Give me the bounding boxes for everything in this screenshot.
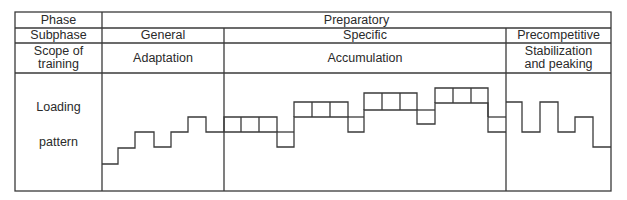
row-label-subphase: Subphase bbox=[15, 28, 102, 43]
phase-preparatory: Preparatory bbox=[102, 12, 611, 28]
loading-label-line1: Loading bbox=[15, 100, 102, 114]
precompetitive-loading-steps bbox=[506, 102, 611, 147]
stabilization-line2: and peaking bbox=[524, 58, 592, 71]
specific-boxes-4 bbox=[435, 88, 488, 103]
scope-label-line2: training bbox=[38, 58, 79, 71]
row-label-phase: Phase bbox=[15, 12, 102, 28]
row-label-scope: Scope of training bbox=[15, 43, 102, 73]
scope-adaptation: Adaptation bbox=[102, 43, 224, 73]
specific-boxes-1 bbox=[224, 117, 277, 132]
specific-boxes-2 bbox=[294, 102, 348, 117]
subphase-specific: Specific bbox=[224, 28, 506, 43]
scope-stabilization-peaking: Stabilization and peaking bbox=[506, 43, 611, 73]
subphase-precompetitive: Precompetitive bbox=[506, 28, 611, 43]
scope-accumulation: Accumulation bbox=[224, 43, 506, 73]
specific-loading-baseline bbox=[224, 103, 506, 147]
loading-label-line2: pattern bbox=[15, 135, 102, 149]
general-loading-steps bbox=[102, 117, 224, 164]
subphase-general: General bbox=[102, 28, 224, 43]
specific-boxes-3 bbox=[364, 93, 417, 110]
loading-pattern-lines bbox=[102, 88, 611, 164]
